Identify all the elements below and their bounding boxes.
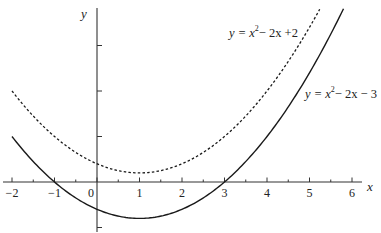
curves xyxy=(12,9,344,219)
parabola-chart: −2−10123456 x y y = x2− 2x +2 y = x2− 2x… xyxy=(0,0,381,233)
x-tick-label: 6 xyxy=(349,186,355,200)
tick-labels: −2−10123456 xyxy=(6,186,355,200)
y-axis-label: y xyxy=(79,6,87,21)
x-tick-label: 2 xyxy=(179,186,185,200)
x-axis-label: x xyxy=(366,179,373,194)
x-tick-label: 0 xyxy=(88,186,94,200)
eq2-suffix: − 2x − 3 xyxy=(335,87,377,101)
equation-label-dashed: y = x2− 2x +2 xyxy=(227,24,298,40)
curve-solid-series xyxy=(12,9,344,219)
x-tick-label: 1 xyxy=(137,186,143,200)
x-tick-label: 3 xyxy=(222,186,228,200)
eq1-suffix: − 2x +2 xyxy=(259,26,298,40)
x-tick-label: 4 xyxy=(264,186,270,200)
x-tick-label: −1 xyxy=(48,186,61,200)
x-tick-label: −2 xyxy=(6,186,19,200)
equation-label-solid: y = x2− 2x − 3 xyxy=(303,85,377,101)
ticks xyxy=(12,46,352,228)
x-tick-label: 5 xyxy=(307,186,313,200)
eq1-prefix: y = x xyxy=(227,26,255,40)
eq2-prefix: y = x xyxy=(303,87,331,101)
